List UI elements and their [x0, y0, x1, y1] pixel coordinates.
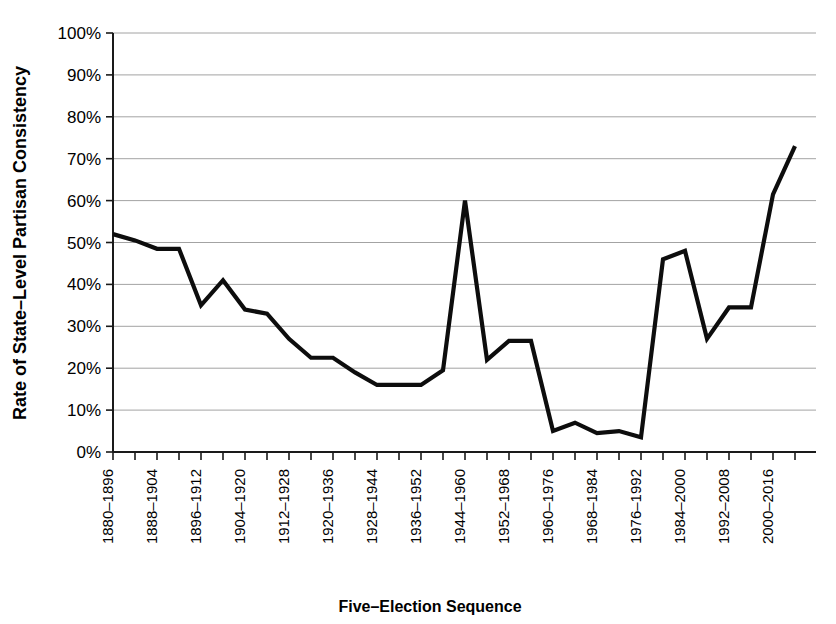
y-tick-label: 10% [67, 401, 101, 420]
line-chart: 0%10%20%30%40%50%60%70%80%90%100% 1880–1… [0, 0, 836, 624]
y-tick-label-group: 0%10%20%30%40%50%60%70%80%90%100% [58, 24, 101, 462]
y-tick-label: 20% [67, 359, 101, 378]
x-tick-label: 2000–2016 [759, 469, 776, 544]
gridlines-group [113, 33, 816, 410]
y-tick-group [106, 33, 113, 452]
x-tick-label-group: 1880–18961888–19041896–19121904–19201912… [99, 469, 776, 544]
y-tick-label: 100% [58, 24, 101, 43]
x-tick-label: 1968–1984 [583, 469, 600, 544]
x-tick-group [113, 452, 795, 460]
x-tick-label: 1976–1992 [627, 469, 644, 544]
x-tick-label: 1888–1904 [143, 469, 160, 544]
x-tick-label: 1960–1976 [539, 469, 556, 544]
y-tick-label: 40% [67, 275, 101, 294]
x-tick-label: 1920–1936 [319, 469, 336, 544]
y-tick-label: 90% [67, 66, 101, 85]
x-tick-label: 1952–1968 [495, 469, 512, 544]
y-tick-label: 0% [76, 443, 101, 462]
y-tick-label: 70% [67, 150, 101, 169]
x-tick-label: 1984–2000 [671, 469, 688, 544]
y-tick-label: 60% [67, 192, 101, 211]
x-tick-label: 1928–1944 [363, 469, 380, 544]
x-axis-title: Five–Election Sequence [338, 598, 521, 615]
x-tick-label: 1896–1912 [187, 469, 204, 544]
x-tick-label: 1912–1928 [275, 469, 292, 544]
y-tick-label: 80% [67, 108, 101, 127]
data-series-line [113, 146, 795, 437]
x-tick-label: 1904–1920 [231, 469, 248, 544]
x-tick-label: 1944–1960 [451, 469, 468, 544]
x-tick-label: 1992–2008 [715, 469, 732, 544]
chart-figure: 0%10%20%30%40%50%60%70%80%90%100% 1880–1… [0, 0, 836, 624]
y-tick-label: 30% [67, 317, 101, 336]
x-tick-label: 1936–1952 [407, 469, 424, 544]
x-tick-label: 1880–1896 [99, 469, 116, 544]
y-axis-title: Rate of State–Level Partisan Consistency [10, 66, 30, 420]
y-tick-label: 50% [67, 234, 101, 253]
